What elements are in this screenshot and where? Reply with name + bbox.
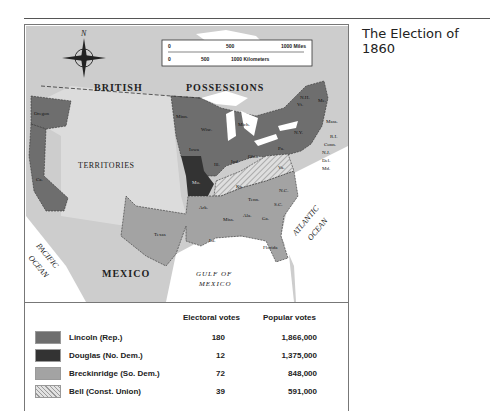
electoral-votes: 180 — [205, 333, 225, 342]
legend-row-breckinridge: Breckinridge (So. Dem.) 72 848,000 — [35, 367, 340, 381]
candidate-label: Lincoln (Rep.) — [69, 333, 122, 342]
popular-votes: 848,000 — [267, 369, 317, 378]
svg-text:0: 0 — [168, 43, 171, 49]
svg-text:1000 Kilometers: 1000 Kilometers — [231, 56, 270, 62]
legend-row-bell: Bell (Const. Union) 39 591,000 — [35, 385, 340, 399]
electoral-votes: 12 — [205, 351, 225, 360]
svg-text:N.Y.: N.Y. — [294, 130, 303, 135]
svg-text:Minn.: Minn. — [176, 114, 188, 119]
svg-text:Va.: Va. — [278, 165, 285, 170]
svg-text:R.I.: R.I. — [330, 134, 338, 139]
svg-text:Iowa: Iowa — [189, 147, 200, 152]
candidate-label: Bell (Const. Union) — [69, 387, 141, 396]
svg-text:N.H.: N.H. — [300, 95, 310, 100]
svg-text:Wisc.: Wisc. — [201, 127, 212, 132]
svg-text:BRITISH: BRITISH — [94, 82, 143, 93]
svg-text:La.: La. — [209, 238, 216, 243]
candidate-label: Breckinridge (So. Dem.) — [69, 369, 160, 378]
svg-text:N.J.: N.J. — [322, 150, 330, 155]
svg-text:Pa.: Pa. — [278, 146, 284, 151]
svg-text:500: 500 — [201, 56, 210, 62]
svg-text:MEXICO: MEXICO — [198, 280, 231, 288]
swatch-bell — [35, 385, 61, 398]
electoral-votes: 72 — [205, 369, 225, 378]
election-map: N 0 500 1000 Miles 0 500 1000 Kilometers… — [26, 26, 348, 302]
legend-header-popular: Popular votes — [263, 313, 316, 322]
swatch-breckinridge — [35, 367, 61, 380]
svg-text:Ark.: Ark. — [199, 205, 208, 210]
svg-text:Mo.: Mo. — [192, 180, 200, 185]
top-rule — [24, 18, 490, 19]
svg-text:Oregon: Oregon — [34, 111, 49, 116]
svg-text:500: 500 — [226, 43, 235, 49]
swatch-douglas — [35, 349, 61, 362]
svg-text:GULF OF: GULF OF — [196, 270, 232, 278]
svg-text:TERRITORIES: TERRITORIES — [78, 161, 134, 170]
legend-header-electoral: Electoral votes — [183, 313, 240, 322]
svg-text:Florida: Florida — [263, 245, 278, 250]
svg-text:Mich.: Mich. — [238, 122, 250, 127]
svg-text:Md.: Md. — [322, 166, 330, 171]
svg-text:Ohio: Ohio — [248, 154, 259, 159]
svg-text:Ky.: Ky. — [236, 184, 243, 189]
legend: Electoral votes Popular votes Lincoln (R… — [25, 302, 348, 411]
legend-row-douglas: Douglas (No. Dem.) 12 1,375,000 — [35, 349, 340, 363]
svg-text:Del.: Del. — [322, 158, 330, 163]
svg-text:Tenn.: Tenn. — [248, 197, 259, 202]
svg-text:Ill.: Ill. — [214, 162, 220, 167]
swatch-lincoln — [35, 331, 61, 344]
figure-caption: The Election of 1860 — [362, 26, 482, 56]
svg-text:Miss.: Miss. — [223, 217, 234, 222]
electoral-votes: 39 — [205, 387, 225, 396]
svg-text:Mass.: Mass. — [326, 119, 338, 124]
svg-text:MEXICO: MEXICO — [102, 268, 150, 279]
svg-text:Ind.: Ind. — [231, 159, 239, 164]
svg-text:POSSESSIONS: POSSESSIONS — [186, 82, 264, 93]
map-graphic: N 0 500 1000 Miles 0 500 1000 Kilometers… — [26, 26, 348, 302]
svg-text:0: 0 — [168, 56, 171, 62]
svg-text:Ca.: Ca. — [36, 177, 43, 182]
svg-text:N: N — [80, 29, 87, 38]
svg-text:Ala.: Ala. — [243, 213, 251, 218]
svg-text:Conn.: Conn. — [324, 142, 336, 147]
popular-votes: 1,866,000 — [267, 333, 317, 342]
svg-text:Ga.: Ga. — [262, 216, 269, 221]
svg-text:N.C.: N.C. — [279, 188, 288, 193]
svg-text:1000 Miles: 1000 Miles — [281, 43, 306, 49]
popular-votes: 591,000 — [267, 387, 317, 396]
svg-text:Texas: Texas — [154, 232, 166, 237]
map-figure: N 0 500 1000 Miles 0 500 1000 Kilometers… — [24, 24, 349, 411]
legend-row-lincoln: Lincoln (Rep.) 180 1,866,000 — [35, 331, 340, 345]
svg-text:Me.: Me. — [318, 98, 326, 103]
candidate-label: Douglas (No. Dem.) — [69, 351, 143, 360]
svg-text:Vt.: Vt. — [297, 102, 303, 107]
popular-votes: 1,375,000 — [267, 351, 317, 360]
svg-text:S.C.: S.C. — [274, 202, 283, 207]
